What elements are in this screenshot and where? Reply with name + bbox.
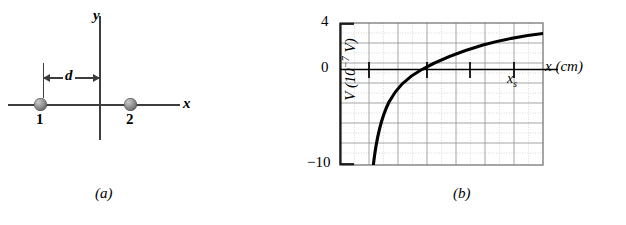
y-tick-label-4: 4 [321, 14, 329, 29]
x-s-marker-label: xs [507, 72, 517, 89]
physics-figure: 1 2 x y d (a) [0, 0, 626, 225]
panel-b-caption: (b) [453, 186, 471, 201]
dimension-arrowhead-right-icon [93, 74, 100, 82]
panel-b-potential-plot: 4 0 −10 V (10−7 V) x (cm) xs (b) [313, 0, 626, 225]
x-axis-label-position: x (cm) [545, 59, 583, 74]
charge-sphere-1 [34, 98, 47, 111]
y-axis-label-potential: V (10−7 V) [340, 20, 359, 120]
y-tick-label-0: 0 [321, 60, 329, 75]
panel-a-charge-diagram: 1 2 x y d (a) [0, 0, 313, 225]
charge-2-label: 2 [126, 112, 134, 127]
y-axis-label: y [93, 8, 100, 23]
x-s-subscript: s [513, 79, 517, 89]
grid-minor [340, 23, 543, 165]
x-axis-label: x [183, 96, 191, 111]
y-axis-label-main: V (10 [342, 68, 358, 101]
dimension-d-label: d [63, 68, 75, 83]
panel-a-caption: (a) [95, 186, 113, 201]
y-tick-label-minus-10: −10 [307, 155, 330, 170]
y-axis-label-tail: V) [342, 38, 358, 56]
potential-curve [373, 34, 543, 169]
dimension-arrowhead-left-icon [43, 74, 50, 82]
charge-1-label: 1 [36, 112, 44, 127]
y-axis-label-exponent: −7 [340, 56, 351, 68]
charge-sphere-2 [124, 98, 137, 111]
